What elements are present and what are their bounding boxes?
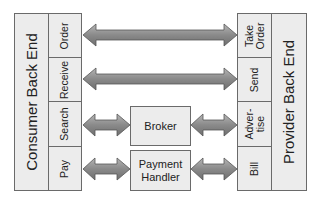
pay-handler-arrow-icon <box>83 158 130 180</box>
broker-advertise-arrow-icon <box>191 114 237 136</box>
arrows-layer <box>0 0 320 204</box>
order-arrow-icon <box>83 24 237 46</box>
delivery-arrow-icon <box>83 68 237 90</box>
search-broker-arrow-icon <box>83 114 130 136</box>
handler-bill-arrow-icon <box>191 158 237 180</box>
